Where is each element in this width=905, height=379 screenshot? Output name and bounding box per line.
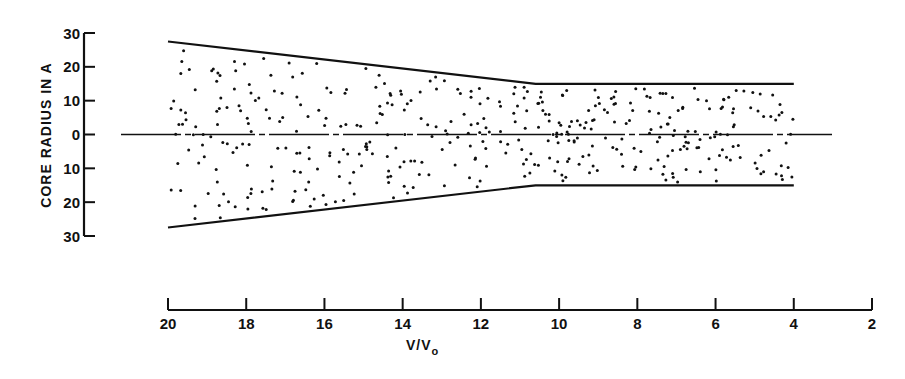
stipple-dot bbox=[768, 149, 771, 152]
stipple-dot bbox=[243, 62, 246, 65]
stipple-dot bbox=[683, 145, 686, 148]
stipple-dot bbox=[219, 216, 222, 219]
stipple-dot bbox=[754, 162, 757, 165]
stipple-dot bbox=[771, 94, 774, 97]
stipple-dot bbox=[769, 115, 772, 118]
stipple-dot bbox=[179, 109, 182, 112]
stipple-dot bbox=[523, 96, 526, 99]
stipple-dot bbox=[470, 90, 473, 93]
x-axis-title-subscript: o bbox=[432, 345, 440, 357]
stipple-dot bbox=[246, 117, 249, 120]
stipple-dot bbox=[456, 88, 459, 91]
stipple-dot bbox=[383, 82, 386, 85]
stipple-dot bbox=[650, 128, 653, 131]
stipple-dot bbox=[307, 115, 310, 118]
stipple-dot bbox=[241, 143, 244, 146]
stipple-dot bbox=[469, 145, 472, 148]
stipple-dot bbox=[364, 67, 367, 70]
stipple-dot bbox=[785, 142, 788, 145]
stipple-dot bbox=[232, 151, 235, 154]
stipple-dot bbox=[718, 154, 721, 157]
stipple-dot bbox=[760, 154, 763, 157]
stipple-dot bbox=[387, 181, 390, 184]
stipple-dot bbox=[525, 109, 528, 112]
stipple-dot bbox=[523, 175, 526, 178]
stipple-dot bbox=[419, 90, 422, 93]
x-tick-label: 14 bbox=[394, 315, 411, 332]
stipple-dot bbox=[592, 165, 595, 168]
stipple-dot bbox=[176, 162, 179, 165]
stipple-dot bbox=[614, 90, 617, 93]
stipple-dot bbox=[596, 169, 599, 172]
stipple-dot bbox=[516, 104, 519, 107]
stipple-dot bbox=[197, 161, 200, 164]
stipple-dot bbox=[459, 92, 462, 95]
stipple-dot bbox=[536, 102, 539, 105]
stipple-dot bbox=[478, 87, 481, 90]
x-tick-label: 20 bbox=[160, 315, 177, 332]
stipple-dot bbox=[170, 189, 173, 192]
stipple-dot bbox=[291, 76, 294, 79]
stipple-dot bbox=[780, 174, 783, 177]
stipple-dot bbox=[714, 168, 717, 171]
stipple-dot bbox=[338, 160, 341, 163]
stipple-dot bbox=[317, 109, 320, 112]
stipple-dot bbox=[194, 205, 197, 208]
stipple-dot bbox=[250, 91, 253, 94]
stipple-dot bbox=[441, 148, 444, 151]
stipple-dot bbox=[737, 144, 740, 147]
stipple-dot bbox=[207, 192, 210, 195]
stipple-dot bbox=[613, 121, 616, 124]
stipple-dot bbox=[449, 141, 452, 144]
stipple-dot bbox=[212, 67, 215, 70]
stipple-dot bbox=[709, 136, 712, 139]
stipple-dot bbox=[667, 123, 670, 126]
stipple-dot bbox=[720, 107, 723, 110]
stipple-dot bbox=[729, 159, 732, 162]
stipple-dot bbox=[661, 92, 664, 95]
stipple-dot bbox=[668, 116, 671, 119]
stipple-dot bbox=[261, 190, 264, 193]
stipple-dot bbox=[248, 143, 251, 146]
stipple-dot bbox=[278, 120, 281, 123]
stipple-dot bbox=[348, 182, 351, 185]
stipple-dot bbox=[628, 119, 631, 122]
boundary-line bbox=[168, 42, 794, 84]
stipple-dot bbox=[579, 124, 582, 127]
stipple-dot bbox=[591, 144, 594, 147]
stipple-dot bbox=[179, 72, 182, 75]
stipple-dot bbox=[374, 86, 377, 89]
stipple-dot bbox=[463, 113, 466, 116]
stipple-dot bbox=[666, 155, 669, 158]
stipple-dot bbox=[403, 160, 406, 163]
stipple-dot bbox=[540, 90, 543, 93]
stipple-dot bbox=[564, 176, 567, 179]
stipple-dot bbox=[292, 199, 295, 202]
stipple-dot bbox=[474, 158, 477, 161]
stipple-dot bbox=[194, 125, 197, 128]
stipple-dot bbox=[227, 200, 230, 203]
stipple-dot bbox=[233, 60, 236, 63]
stipple-dot bbox=[721, 148, 724, 151]
stipple-dot bbox=[697, 146, 700, 149]
stipple-dot bbox=[749, 106, 752, 109]
stipple-dot bbox=[656, 140, 659, 143]
stipple-dot bbox=[435, 125, 438, 128]
stipple-dot bbox=[418, 173, 421, 176]
stipple-dot bbox=[181, 123, 184, 126]
stipple-dot bbox=[426, 123, 429, 126]
stipple-dot bbox=[587, 154, 590, 157]
stipple-dot bbox=[694, 130, 697, 133]
y-tick-label: 20 bbox=[63, 194, 80, 211]
stipple-dot bbox=[733, 123, 736, 126]
stipple-dot bbox=[219, 96, 222, 99]
stipple-dot bbox=[182, 49, 185, 52]
stipple-dot bbox=[699, 138, 702, 141]
stipple-dot bbox=[334, 200, 337, 203]
stipple-dot bbox=[406, 192, 409, 195]
stipple-dot bbox=[345, 88, 348, 91]
stipple-dot bbox=[281, 92, 284, 95]
stipple-dot bbox=[216, 181, 219, 184]
stipple-dot bbox=[565, 89, 568, 92]
stipple-dot bbox=[715, 131, 718, 134]
